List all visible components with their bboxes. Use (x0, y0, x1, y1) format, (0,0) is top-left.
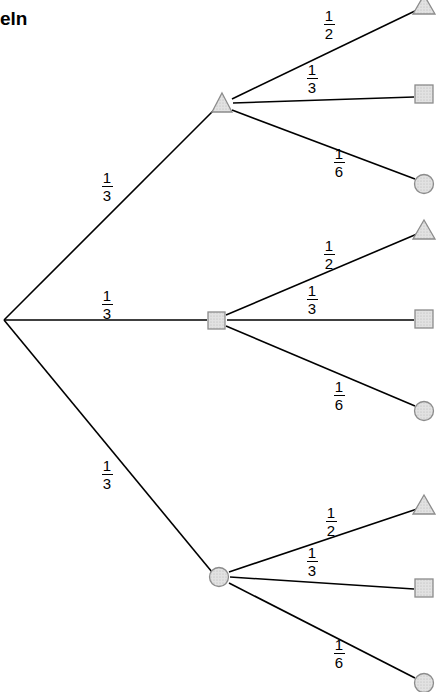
leaf-square-3 (415, 579, 433, 597)
prob-label-root-triangle: 1 3 (95, 170, 119, 203)
leaf-square-2 (415, 310, 433, 328)
leaf-circle-2 (415, 402, 434, 421)
leaf-circle-3 (415, 674, 434, 692)
prob-label-triangle-square: 1 3 (300, 62, 324, 95)
prob-label-root-square: 1 3 (95, 288, 119, 321)
branch-triangle-square (233, 97, 414, 103)
leaf-circle-1 (415, 175, 434, 194)
tree-graphic (0, 0, 437, 692)
prob-label-square-square: 1 3 (300, 283, 324, 316)
prob-label-square-circle: 1 6 (327, 379, 351, 412)
leaf-triangle-1 (413, 0, 435, 14)
leaf-square-1 (415, 85, 433, 103)
node-square-level1 (208, 312, 225, 329)
branch-circle-square (230, 577, 414, 589)
leaf-triangle-3 (413, 495, 435, 514)
branch-root-circle (4, 320, 212, 572)
leaf-triangle-2 (413, 220, 435, 239)
prob-label-triangle-triangle: 1 2 (317, 8, 341, 41)
branch-square-circle (226, 326, 415, 406)
prob-label-square-triangle: 1 2 (317, 238, 341, 271)
branch-circle-circle (229, 583, 415, 678)
prob-label-circle-triangle: 1 2 (319, 505, 343, 538)
prob-label-circle-circle: 1 6 (327, 637, 351, 670)
prob-label-triangle-circle: 1 6 (327, 146, 351, 179)
node-circle-level1 (210, 568, 229, 587)
probability-tree-diagram: eln (0, 0, 437, 692)
node-triangle-level1 (212, 93, 232, 112)
branch-triangle-circle (232, 110, 415, 179)
prob-label-root-circle: 1 3 (95, 458, 119, 491)
prob-label-circle-square: 1 3 (300, 545, 324, 578)
